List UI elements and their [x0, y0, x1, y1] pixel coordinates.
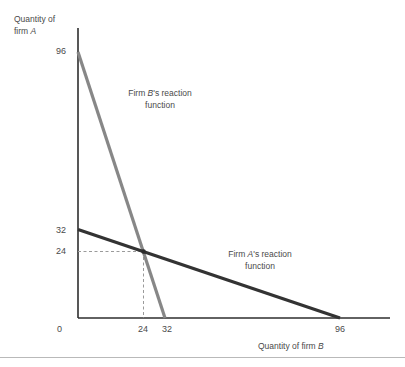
firm-a-reaction-function-label: Firm A's reaction function [205, 249, 315, 272]
x-axis-title: Quantity of firm B [258, 341, 324, 353]
firm-a-label-line1: Firm A's reaction [228, 249, 292, 259]
x-tick-label-96: 96 [335, 324, 345, 334]
footer-divider [0, 357, 405, 358]
x-axis-title-text: Quantity of firm B [258, 341, 324, 351]
y-axis-title: Quantity of firm A [14, 14, 55, 37]
cournot-reaction-functions-figure: Quantity of firm A Quantity of firm B 96… [0, 0, 405, 367]
y-tick-label-24: 24 [56, 246, 66, 256]
x-tick-label-24: 24 [138, 324, 148, 334]
y-tick-label-96: 96 [56, 46, 66, 56]
y-axis-title-line1: Quantity of [14, 14, 55, 24]
equilibrium-point-marker [141, 249, 146, 254]
y-tick-label-32: 32 [56, 225, 66, 235]
firm-b-reaction-function-label: Firm B's reaction function [100, 88, 220, 111]
firm-b-label-line1: Firm B's reaction [128, 88, 192, 98]
x-tick-label-32: 32 [162, 324, 172, 334]
y-axis-title-line2: firm A [14, 26, 36, 36]
firm-a-label-line2: function [245, 261, 275, 271]
firm-a-reaction-function-curve [78, 230, 340, 319]
firm-b-label-line2: function [145, 100, 175, 110]
origin-tick-label: 0 [57, 324, 62, 334]
